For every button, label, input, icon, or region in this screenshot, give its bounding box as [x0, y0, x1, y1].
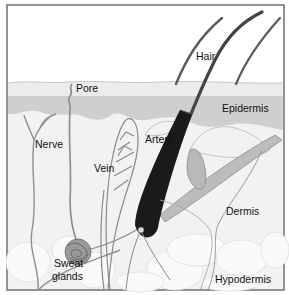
label-sweat-glands-2: glands [52, 270, 83, 282]
label-dermis: Dermis [226, 205, 259, 217]
label-vein: Vein [94, 162, 115, 174]
label-artery: Artery [145, 133, 174, 145]
label-nerve: Nerve [35, 138, 63, 150]
label-hypodermis: Hypodermis [215, 273, 271, 285]
label-sweat-glands-1: Sweat [54, 257, 83, 269]
skin-diagram: Hair Pore Epidermis Nerve Artery Vein De… [0, 0, 289, 295]
skin-surface [8, 81, 283, 97]
label-pore: Pore [76, 82, 98, 94]
label-epidermis: Epidermis [222, 102, 269, 114]
label-hair: Hair [196, 50, 216, 62]
